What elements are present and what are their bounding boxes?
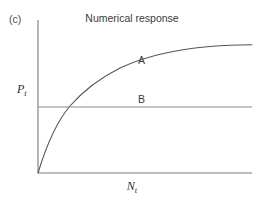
y-axis-label: Pt — [17, 83, 27, 98]
y-axis-label-subscript: t — [24, 88, 26, 98]
x-axis-label: Nt — [0, 180, 264, 195]
plot-canvas — [0, 0, 264, 203]
curve-b-label: B — [138, 94, 145, 105]
chart-title: Numerical response — [0, 13, 264, 24]
x-axis-label-subscript: t — [135, 185, 137, 195]
numerical-response-figure: (c) Numerical response Pt Nt A B — [0, 0, 264, 203]
curve-a-label: A — [138, 55, 145, 66]
x-axis-label-symbol: N — [127, 179, 135, 193]
